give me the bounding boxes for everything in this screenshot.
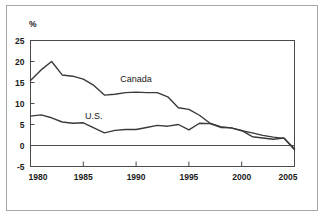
y-tick-label: 0 (20, 141, 25, 151)
x-tick-label: 1990 (127, 172, 146, 182)
y-axis-tick-labels: 2520151050-5 (15, 36, 25, 172)
plot-frame (31, 41, 295, 167)
series-line-us (31, 115, 295, 150)
x-axis-tick-marks (83, 162, 241, 167)
x-tick-label: 2000 (232, 172, 251, 182)
y-tick-label: 5 (20, 120, 25, 130)
data-series-lines (31, 62, 295, 150)
y-tick-label: -5 (17, 162, 25, 172)
series-label-us: U.S. (85, 111, 103, 121)
x-tick-label: 1980 (29, 172, 48, 182)
y-axis-unit-label: % (29, 19, 37, 29)
y-tick-label: 20 (15, 57, 25, 67)
chart-plot-area: % 2520151050-5 198019851990199520002005 … (0, 0, 325, 218)
x-axis-tick-labels: 198019851990199520002005 (29, 172, 298, 182)
y-tick-label: 25 (15, 36, 25, 46)
x-tick-label: 1995 (179, 172, 198, 182)
series-annotations: CanadaU.S. (85, 74, 152, 121)
series-line-canada (31, 62, 295, 149)
chart-figure: % 2520151050-5 198019851990199520002005 … (0, 0, 325, 218)
line-chart-svg: % 2520151050-5 198019851990199520002005 … (0, 0, 325, 218)
y-tick-label: 15 (15, 78, 25, 88)
y-tick-label: 10 (15, 99, 25, 109)
x-tick-label: 2005 (279, 172, 298, 182)
x-tick-label: 1985 (74, 172, 93, 182)
series-label-canada: Canada (120, 74, 152, 84)
